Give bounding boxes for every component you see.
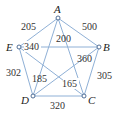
weight-b-d: 360 (77, 53, 92, 64)
weight-a-e: 205 (21, 21, 36, 32)
node-label-e: E (5, 41, 13, 53)
node-a (56, 16, 60, 20)
edge-a-d (33, 18, 58, 96)
graph-svg: 205 500 200 185 340 360 305 302 165 320 … (0, 0, 117, 113)
weight-e-d: 302 (6, 67, 21, 78)
node-label-d: D (20, 94, 29, 106)
weight-e-c: 165 (62, 78, 77, 89)
weight-b-c: 305 (97, 70, 112, 81)
weight-a-b: 500 (82, 21, 97, 32)
node-label-b: B (103, 41, 110, 53)
node-e (17, 45, 21, 49)
node-c (82, 94, 86, 98)
node-b (97, 45, 101, 49)
node-label-c: C (88, 94, 96, 106)
weight-e-b: 340 (24, 41, 39, 52)
weight-a-c: 200 (56, 33, 71, 44)
node-label-a: A (53, 3, 61, 15)
edge-e-d (19, 47, 33, 96)
weighted-graph-diagram: 205 500 200 185 340 360 305 302 165 320 … (0, 0, 117, 113)
weight-a-d: 185 (32, 73, 47, 84)
node-d (31, 94, 35, 98)
weight-d-c: 320 (50, 100, 65, 111)
